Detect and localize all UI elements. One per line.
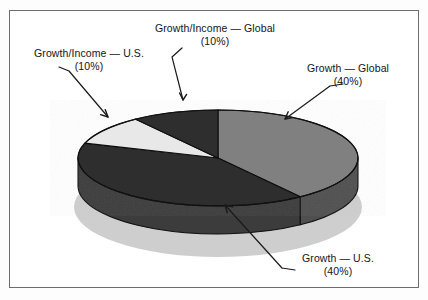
slice-label-growth-us-pct: (40%) xyxy=(282,265,394,278)
slice-label-growth-global-pct: (40%) xyxy=(290,75,406,88)
pie-chart-figure: Growth/Income — Global (10%) Growth/Inco… xyxy=(0,0,428,300)
slice-label-growth-income-global: Growth/Income — Global (10%) xyxy=(140,22,290,47)
slice-label-growth-us: Growth — U.S. (40%) xyxy=(282,252,394,277)
slice-label-growth-global: Growth — Global (40%) xyxy=(290,62,406,87)
leader-line-growth-income-us xyxy=(59,67,108,117)
slice-label-growth-global-text: Growth — Global xyxy=(307,62,389,74)
leader-arrowhead-growth-global xyxy=(285,112,293,119)
leader-line-growth-global xyxy=(285,84,343,119)
slice-label-growth-income-us-pct: (10%) xyxy=(25,60,153,73)
slice-label-growth-income-us: Growth/Income — U.S. (10%) xyxy=(25,47,153,72)
slice-label-growth-income-global-text: Growth/Income — Global xyxy=(155,22,275,34)
slice-label-growth-income-us-text: Growth/Income — U.S. xyxy=(34,47,144,59)
leader-arrowhead-growth-income-global xyxy=(180,93,187,100)
slice-label-growth-us-text: Growth — U.S. xyxy=(302,252,374,264)
leader-line-growth-income-global xyxy=(172,48,183,100)
pie-top-face xyxy=(78,110,358,206)
slice-label-growth-income-global-pct: (10%) xyxy=(140,35,290,48)
